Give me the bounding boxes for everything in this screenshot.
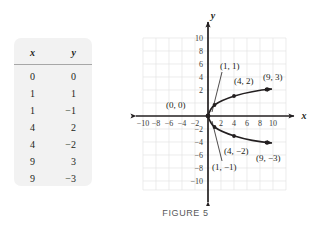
annotation-p93: (9, 3) xyxy=(263,72,283,82)
leader-line-p11 xyxy=(212,72,222,112)
x-tick: −6 xyxy=(165,119,174,128)
x-tick: −10 xyxy=(137,119,150,128)
y-tick: 8 xyxy=(199,47,203,56)
table-header: x y xyxy=(14,38,92,65)
x-tick: 4 xyxy=(232,119,236,128)
cell-y: −3 xyxy=(52,170,92,187)
cell-y: 3 xyxy=(52,153,92,170)
annotation-p4m2: (4, −2) xyxy=(224,146,249,156)
cell-x: 1 xyxy=(14,102,52,119)
cell-y: −1 xyxy=(52,102,92,119)
curve-upper-branch xyxy=(208,89,272,116)
axis-lines xyxy=(136,22,294,202)
y-tick: −4 xyxy=(194,138,203,147)
cell-x: 4 xyxy=(14,136,52,153)
value-table-panel: x y 0 0 1 1 1 −1 4 2 4 −2 xyxy=(14,38,92,186)
figure-caption: FIGURE 5 xyxy=(0,208,317,218)
point-4-2 xyxy=(232,94,236,98)
column-header-x: x xyxy=(14,38,52,65)
cell-x: 9 xyxy=(14,170,52,187)
annotation-origin: (0, 0) xyxy=(166,100,186,110)
table-row: 9 3 xyxy=(14,153,92,170)
x-axis-label: x xyxy=(301,110,307,121)
point-9-m3 xyxy=(265,141,269,145)
annotation-p11: (1, 1) xyxy=(220,61,240,71)
table-row: 4 −2 xyxy=(14,136,92,153)
cell-x: 9 xyxy=(14,153,52,170)
x-tick: 8 xyxy=(258,119,262,128)
cell-x: 0 xyxy=(14,65,52,86)
cell-y: 1 xyxy=(52,85,92,102)
table-row: 4 2 xyxy=(14,119,92,136)
table-row: 1 1 xyxy=(14,85,92,102)
annotation-p1m1: (1, −1) xyxy=(212,162,237,172)
point-4-m2 xyxy=(232,134,236,138)
x-tick: 10 xyxy=(269,119,277,128)
x-tick: 2 xyxy=(219,119,223,128)
table-row: 1 −1 xyxy=(14,102,92,119)
y-tick: −8 xyxy=(194,164,203,173)
annotation-p42: (4, 2) xyxy=(234,76,254,86)
table-body: 0 0 1 1 1 −1 4 2 4 −2 9 3 xyxy=(14,65,92,188)
value-table: x y 0 0 1 1 1 −1 4 2 4 −2 xyxy=(14,38,92,187)
cell-y: −2 xyxy=(52,136,92,153)
y-tick: 6 xyxy=(199,60,203,69)
y-tick: 10 xyxy=(195,34,203,43)
graph-svg: −10 −8 −6 −4 −2 2 4 6 8 10 10 8 6 4 2 −2… xyxy=(128,6,317,206)
x-tick: 6 xyxy=(245,119,249,128)
y-tick: 2 xyxy=(199,86,203,95)
table-header-row: x y xyxy=(14,38,92,65)
x-tick: −8 xyxy=(152,119,161,128)
cell-x: 4 xyxy=(14,119,52,136)
cell-y: 0 xyxy=(52,65,92,86)
coordinate-graph: −10 −8 −6 −4 −2 2 4 6 8 10 10 8 6 4 2 −2… xyxy=(128,6,317,206)
column-header-y: y xyxy=(52,38,92,65)
annotation-p9m3: (9, −3) xyxy=(256,153,281,163)
table-row: 0 0 xyxy=(14,65,92,86)
y-axis-label: y xyxy=(210,10,216,21)
y-tick: −2 xyxy=(194,125,203,134)
point-0-0 xyxy=(206,114,211,119)
x-tick: −4 xyxy=(178,119,187,128)
table-row: 9 −3 xyxy=(14,170,92,187)
x-tick-labels: −10 −8 −6 −4 −2 2 4 6 8 10 xyxy=(137,119,277,128)
y-tick: −6 xyxy=(194,151,203,160)
y-tick: 4 xyxy=(199,73,203,82)
cell-x: 1 xyxy=(14,85,52,102)
point-9-3 xyxy=(265,88,269,92)
cell-y: 2 xyxy=(52,119,92,136)
y-tick-labels: 10 8 6 4 2 −2 −4 −6 −8 −10 xyxy=(190,34,203,186)
y-tick: −10 xyxy=(190,177,203,186)
curve-lower-branch xyxy=(208,116,272,143)
